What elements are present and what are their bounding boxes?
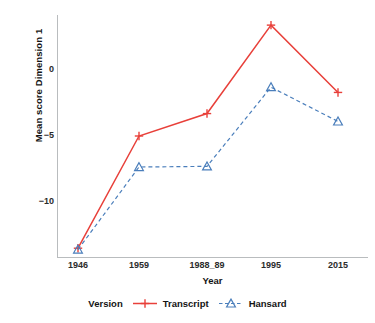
chart-figure: Mean score Dimension 1 0−5−10 1946195919… xyxy=(0,0,375,323)
legend-key-transcript xyxy=(132,298,158,309)
legend: Version TranscriptHansard xyxy=(0,298,375,309)
series-transcript xyxy=(74,21,342,252)
legend-entry-transcript[interactable]: Transcript xyxy=(132,298,209,309)
legend-title: Version xyxy=(88,298,122,309)
legend-label: Transcript xyxy=(163,298,209,309)
y-tick-label: −5 xyxy=(24,131,54,140)
legend-key-hansard xyxy=(218,298,244,309)
x-tick-label: 1946 xyxy=(68,260,88,270)
y-axis-tick-labels: 0−5−10 xyxy=(20,0,54,260)
data-point-marker-triangle xyxy=(334,117,343,125)
data-point-marker-triangle xyxy=(267,83,276,91)
series-canvas xyxy=(57,15,369,258)
data-point-marker-plus xyxy=(135,132,143,140)
data-point-marker-plus xyxy=(140,299,148,307)
series-hansard xyxy=(74,83,343,253)
x-axis-tick-labels: 194619591988_8919952015 xyxy=(57,260,368,276)
x-axis-title: Year xyxy=(57,275,368,286)
legend-label: Hansard xyxy=(249,298,287,309)
plot-area xyxy=(57,15,368,258)
x-tick-label: 1995 xyxy=(261,260,281,270)
x-tick-label: 2015 xyxy=(328,260,348,270)
x-tick-label: 1959 xyxy=(129,260,149,270)
y-tick-label: −10 xyxy=(24,197,54,206)
legend-entry-hansard[interactable]: Hansard xyxy=(218,298,287,309)
y-tick-label: 0 xyxy=(24,65,54,74)
series-line xyxy=(78,25,338,248)
x-tick-label: 1988_89 xyxy=(189,260,224,270)
